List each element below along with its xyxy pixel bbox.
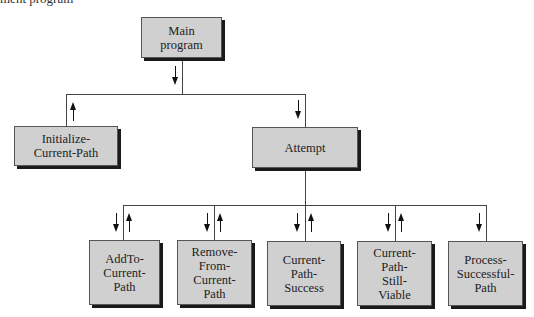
connector-add-to (123, 205, 124, 240)
node-remove-from-current-path: Remove- From- Current- Path (177, 240, 252, 305)
node-current-path-still-viable: Current- Path- Still- Viable (357, 241, 432, 306)
down-arrow-icon (295, 100, 302, 119)
node-main-program: Main program (141, 17, 222, 58)
node-label: Current- Path- Still- Viable (373, 246, 415, 302)
up-arrow-icon (126, 213, 133, 232)
up-arrow-icon (70, 102, 77, 121)
down-arrow-icon (385, 213, 392, 232)
connector-level1-bus (66, 94, 306, 95)
connector-success (305, 205, 306, 241)
down-arrow-icon (113, 213, 120, 232)
node-current-path-success: Current- Path- Success (267, 241, 341, 306)
up-arrow-icon (308, 213, 315, 232)
down-arrow-icon (172, 66, 179, 85)
connector-attempt-down (305, 168, 306, 206)
node-label: Main program (160, 24, 202, 52)
connector-attempt (305, 94, 306, 127)
connector-main-down (182, 58, 183, 95)
down-arrow-icon (476, 213, 483, 232)
node-label: Current- Path- Success (283, 253, 325, 295)
node-label: Attempt (285, 141, 326, 155)
node-process-successful-path: Process- Successful- Path (448, 241, 523, 306)
down-arrow-icon (294, 213, 301, 232)
node-label: Process- Successful- Path (457, 253, 515, 295)
figure-caption: ment program (0, 0, 73, 7)
node-label: Remove- From- Current- Path (192, 245, 238, 301)
node-add-to-current-path: AddTo- Current- Path (89, 240, 160, 305)
node-label: Initialize- Current-Path (34, 132, 99, 160)
connector-still-viable (395, 205, 396, 241)
node-attempt: Attempt (252, 127, 358, 168)
connector-process (486, 205, 487, 241)
up-arrow-icon (398, 213, 405, 232)
connector-initialize (66, 94, 67, 126)
up-arrow-icon (217, 213, 224, 232)
node-initialize-current-path: Initialize- Current-Path (14, 126, 118, 166)
node-label: AddTo- Current- Path (103, 252, 145, 294)
connector-remove-from (214, 205, 215, 240)
down-arrow-icon (204, 213, 211, 232)
